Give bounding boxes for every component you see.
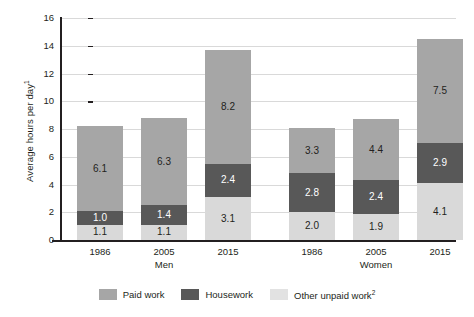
bar-segment[interactable]: 3.1 (205, 197, 251, 240)
x-tick-label: 2005 (346, 246, 406, 257)
x-axis-group-label: Men (119, 259, 209, 270)
legend-swatch (99, 289, 117, 300)
x-tick-label: 2015 (198, 246, 258, 257)
bar-value-label: 2.0 (305, 221, 319, 231)
y-tick-label: 6 (34, 152, 54, 162)
bar-value-label: 1.1 (157, 227, 171, 237)
bar-segment[interactable]: 8.2 (205, 50, 251, 164)
bar-segment[interactable]: 1.0 (77, 211, 123, 225)
bar-segment[interactable]: 2.9 (417, 143, 463, 183)
bar-segment[interactable]: 2.4 (205, 164, 251, 197)
bar-value-label: 8.2 (221, 102, 235, 112)
bar-segment[interactable]: 1.1 (77, 225, 123, 240)
x-tick-label: 1986 (70, 246, 130, 257)
bar-segment[interactable]: 1.9 (353, 214, 399, 240)
bar-segment[interactable]: 6.3 (141, 118, 187, 205)
y-tick-label: 2 (34, 207, 54, 217)
bar-stack[interactable]: 7.52.94.1 (417, 39, 463, 240)
x-tick-label: 1986 (282, 246, 342, 257)
bar-value-label: 4.4 (369, 145, 383, 155)
x-axis-line (52, 240, 456, 242)
bar-value-label: 3.3 (305, 146, 319, 156)
legend-label: Paid work (123, 289, 165, 300)
bar-value-label: 2.4 (221, 175, 235, 185)
legend-item[interactable]: Housework (181, 289, 253, 300)
y-axis-ticks: 0246810121416 (28, 18, 54, 240)
y-tick-label: 12 (34, 69, 54, 79)
y-tick-label: 14 (34, 41, 54, 51)
bar-chart: Average hours per day1 0246810121416 6.1… (0, 0, 474, 317)
y-tick-label: 0 (34, 235, 54, 245)
legend-label-superscript: 2 (372, 289, 376, 296)
x-tick-label: 2005 (134, 246, 194, 257)
bar-segment[interactable]: 4.1 (417, 183, 463, 240)
bar-value-label: 3.1 (221, 214, 235, 224)
y-tick-label: 10 (34, 96, 54, 106)
bar-segment[interactable]: 2.4 (353, 180, 399, 213)
bar-value-label: 2.9 (433, 158, 447, 168)
legend-label: Housework (205, 289, 253, 300)
bar-segment[interactable]: 6.1 (77, 126, 123, 211)
bar-value-label: 6.1 (93, 164, 107, 174)
bar-segment[interactable]: 2.0 (289, 212, 335, 240)
y-tick-label: 8 (34, 124, 54, 134)
bar-segment[interactable]: 2.8 (289, 173, 335, 212)
y-tick-label: 4 (34, 180, 54, 190)
bar-segment[interactable]: 1.4 (141, 205, 187, 224)
bar-value-label: 1.9 (369, 222, 383, 232)
y-tick-label: 16 (34, 13, 54, 23)
bar-stack[interactable]: 3.32.82.0 (289, 128, 335, 240)
bar-value-label: 2.8 (305, 188, 319, 198)
bar-stack[interactable]: 6.31.41.1 (141, 118, 187, 240)
bar-segment[interactable]: 7.5 (417, 39, 463, 143)
bar-value-label: 2.4 (369, 192, 383, 202)
chart-legend: Paid workHouseworkOther unpaid work2 (0, 287, 474, 301)
bar-value-label: 1.0 (93, 213, 107, 223)
bar-value-label: 1.1 (93, 227, 107, 237)
x-axis-group-label: Women (331, 259, 421, 270)
bar-value-label: 7.5 (433, 86, 447, 96)
bar-segment[interactable]: 1.1 (141, 225, 187, 240)
legend-item[interactable]: Other unpaid work2 (270, 287, 375, 301)
bar-value-label: 4.1 (433, 207, 447, 217)
legend-swatch (181, 289, 199, 300)
legend-swatch (270, 289, 288, 300)
bar-stack[interactable]: 4.42.41.9 (353, 119, 399, 240)
bars-container: 6.11.01.16.31.41.18.22.43.13.32.82.04.42… (60, 18, 456, 240)
legend-item[interactable]: Paid work (99, 289, 165, 300)
bar-value-label: 6.3 (157, 157, 171, 167)
bar-stack[interactable]: 6.11.01.1 (77, 126, 123, 240)
bar-value-label: 1.4 (157, 210, 171, 220)
bar-segment[interactable]: 4.4 (353, 119, 399, 180)
bar-stack[interactable]: 8.22.43.1 (205, 50, 251, 240)
legend-label: Other unpaid work2 (294, 287, 375, 301)
bar-segment[interactable]: 3.3 (289, 128, 335, 174)
x-tick-label: 2015 (410, 246, 470, 257)
